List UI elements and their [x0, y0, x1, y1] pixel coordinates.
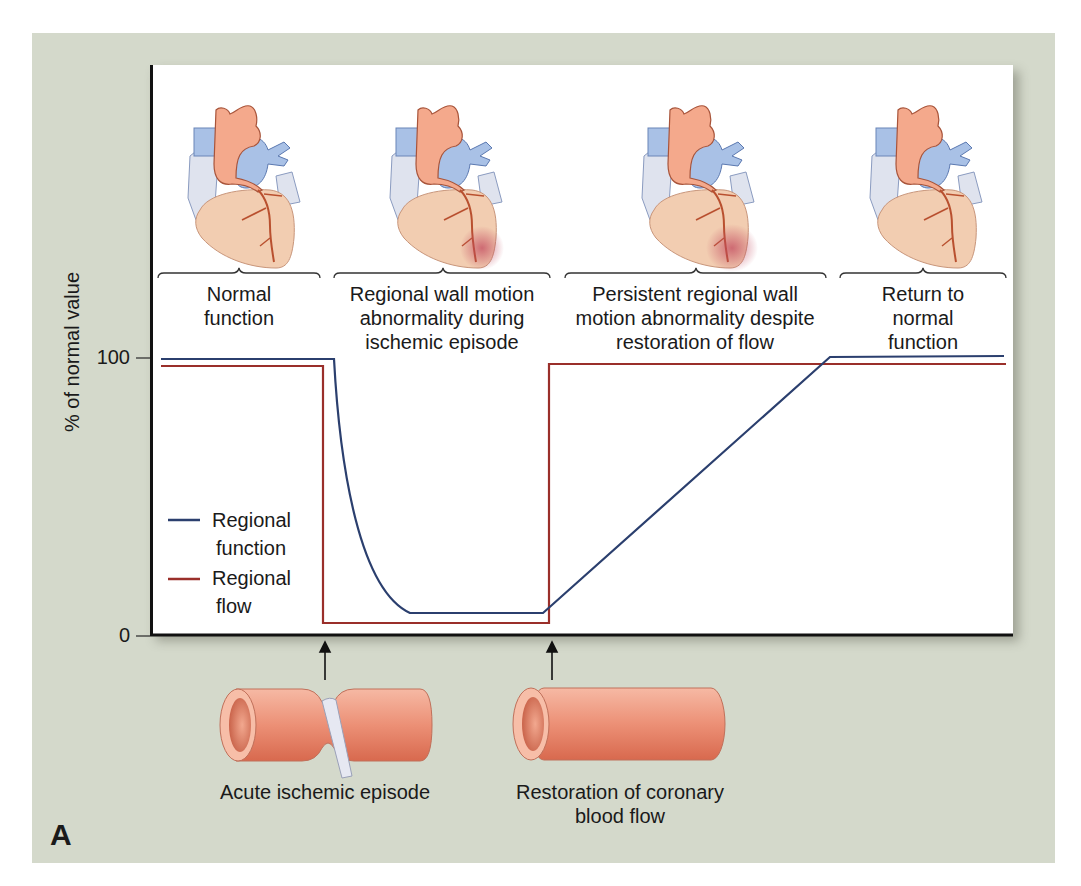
- phase-label-normal: Normal function: [158, 282, 320, 330]
- phase-text: normal: [840, 306, 1006, 330]
- phase-label-ischemic: Regional wall motion abnormality during …: [322, 282, 562, 354]
- arrow-up-icon: [547, 642, 557, 680]
- legend-text: function: [212, 534, 291, 562]
- phase-label-stunned: Persistent regional wall motion abnormal…: [545, 282, 845, 354]
- phase-text: Persistent regional wall: [545, 282, 845, 306]
- phase-text: abnormality during: [322, 306, 562, 330]
- occluded-vessel-icon: [220, 689, 432, 778]
- panel-label: A: [50, 818, 72, 852]
- caption-restoration: Restoration of coronary blood flow: [480, 780, 760, 828]
- phase-text: motion abnormality despite: [545, 306, 845, 330]
- phase-text: Normal: [158, 282, 320, 306]
- arrow-up-icon: [320, 642, 330, 680]
- legend-text: Regional: [212, 564, 291, 592]
- phase-braces: [158, 268, 1006, 278]
- phase-text: restoration of flow: [545, 330, 845, 354]
- chart-svg: [0, 0, 1081, 886]
- tick-label-100: 100: [70, 346, 130, 369]
- caption-text: blood flow: [480, 804, 760, 828]
- phase-text: Return to: [840, 282, 1006, 306]
- heart-normal-icon: [188, 106, 300, 268]
- phase-text: function: [158, 306, 320, 330]
- heart-stunned-icon: [642, 106, 758, 272]
- caption-text: Restoration of coronary: [480, 780, 760, 804]
- caption-acute-ischemic-episode: Acute ischemic episode: [190, 780, 460, 804]
- legend-function: Regional function: [212, 506, 291, 562]
- phase-text: function: [840, 330, 1006, 354]
- patent-vessel-icon: [513, 688, 725, 760]
- phase-label-recovered: Return to normal function: [840, 282, 1006, 354]
- heart-recovered-icon: [870, 106, 982, 268]
- legend-flow: Regional flow: [212, 564, 291, 620]
- legend-text: Regional: [212, 506, 291, 534]
- legend-text: flow: [212, 592, 291, 620]
- tick-label-0: 0: [70, 624, 130, 647]
- heart-ischemic-icon: [390, 106, 504, 270]
- phase-text: ischemic episode: [322, 330, 562, 354]
- phase-text: Regional wall motion: [322, 282, 562, 306]
